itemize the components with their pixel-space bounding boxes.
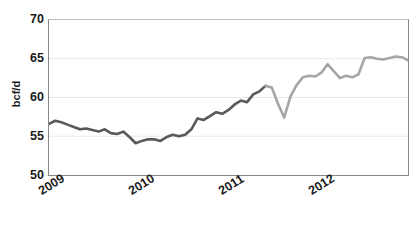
x-tick-2012: 2012: [306, 171, 337, 198]
x-axis-tick-labels: 2009 2010 2011 2012: [0, 0, 418, 228]
x-tick-2009: 2009: [36, 171, 67, 198]
x-tick-2010: 2010: [126, 171, 157, 198]
chart-container: bcf/d 70 65 60 55 50 2009 2010 2011 2012: [0, 0, 418, 228]
x-tick-2011: 2011: [216, 172, 246, 198]
